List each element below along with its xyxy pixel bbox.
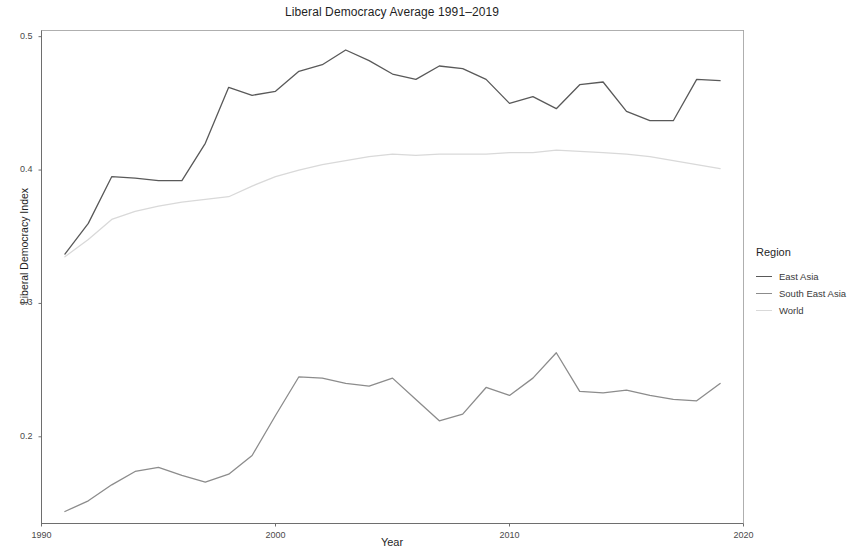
legend-item-label: World: [779, 305, 804, 316]
legend-item-label: South East Asia: [779, 288, 846, 299]
legend-item-label: East Asia: [779, 271, 819, 282]
legend-item: South East Asia: [756, 285, 856, 302]
legend-title: Region: [756, 246, 856, 258]
chart-figure: Liberal Democracy Average 1991–2019 Libe…: [0, 0, 856, 557]
legend: Region East AsiaSouth East AsiaWorld: [756, 246, 856, 319]
tick-marks: [39, 37, 744, 527]
x-axis-title: Year: [41, 536, 743, 548]
series-lines: [65, 50, 720, 511]
axis-lines: [41, 30, 744, 524]
legend-item: World: [756, 302, 856, 319]
y-tick-label: 0.2: [5, 431, 33, 441]
legend-items: East AsiaSouth East AsiaWorld: [756, 268, 856, 319]
legend-swatch-icon: [756, 310, 772, 311]
y-tick-label: 0.5: [5, 31, 33, 41]
y-tick-label: 0.4: [5, 164, 33, 174]
legend-swatch-icon: [756, 276, 772, 277]
legend-item: East Asia: [756, 268, 856, 285]
series-line: [65, 150, 720, 257]
y-tick-label: 0.3: [5, 297, 33, 307]
series-line: [65, 353, 720, 512]
series-line: [65, 50, 720, 254]
plot-area: [0, 0, 856, 557]
legend-swatch-icon: [756, 293, 772, 294]
